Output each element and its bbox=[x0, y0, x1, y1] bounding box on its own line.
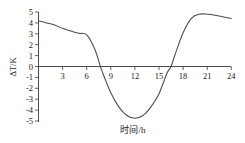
y-tick-label: -2 bbox=[26, 83, 33, 93]
x-tick-label: 21 bbox=[203, 71, 212, 81]
y-tick-label: -5 bbox=[26, 116, 33, 126]
y-tick-label: 4 bbox=[29, 18, 34, 28]
y-axis-ticks bbox=[35, 12, 39, 121]
y-tick-label: 3 bbox=[29, 29, 33, 39]
x-tick-label: 3 bbox=[60, 71, 64, 81]
x-tick-label: 12 bbox=[131, 71, 140, 81]
x-tick-label: 9 bbox=[109, 71, 113, 81]
chart-canvas: 5 4 3 2 1 0 -1 -2 -3 -4 -5 3 6 9 bbox=[0, 0, 245, 143]
y-tick-label: 0 bbox=[29, 62, 33, 72]
x-axis-title: 时间/h bbox=[120, 124, 146, 135]
x-axis-tick-labels: 3 6 9 12 15 18 21 24 bbox=[60, 71, 236, 81]
y-axis-tick-labels: 5 4 3 2 1 0 -1 -2 -3 -4 -5 bbox=[26, 7, 34, 126]
temperature-curve bbox=[39, 14, 232, 118]
y-tick-label: 2 bbox=[29, 40, 33, 50]
y-axis-title: ΔT/K bbox=[8, 57, 18, 77]
y-tick-label: 5 bbox=[29, 7, 33, 17]
y-tick-label: -3 bbox=[26, 94, 33, 104]
y-tick-label: -1 bbox=[26, 72, 33, 82]
x-tick-label: 6 bbox=[85, 71, 89, 81]
x-tick-label: 15 bbox=[155, 71, 164, 81]
x-tick-label: 18 bbox=[179, 71, 188, 81]
y-tick-label: -4 bbox=[26, 105, 34, 115]
x-tick-label: 24 bbox=[227, 71, 236, 81]
y-tick-label: 1 bbox=[29, 51, 33, 61]
temperature-difference-chart: 5 4 3 2 1 0 -1 -2 -3 -4 -5 3 6 9 bbox=[0, 0, 245, 143]
x-axis-ticks bbox=[63, 67, 232, 71]
